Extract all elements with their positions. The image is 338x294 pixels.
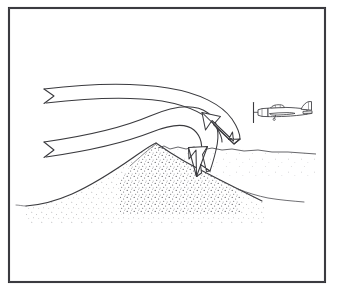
tailplane [303,111,312,114]
engine-cowling [258,108,268,116]
illustration-figure: Pen-and-ink line drawing: two broad ribb… [0,0,338,294]
diagram-canvas [0,0,338,294]
